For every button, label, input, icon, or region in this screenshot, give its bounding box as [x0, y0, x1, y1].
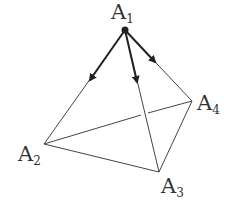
label-a4: A4: [197, 93, 220, 116]
vertex-a1-dot: [122, 27, 129, 34]
edge-a3-a4: [159, 101, 192, 172]
edge-a2-a4-left: [44, 115, 141, 144]
edge-a2-a4-right: [148, 101, 192, 113]
tetrahedron-diagram: A1 A2 A3 A4: [0, 0, 227, 205]
label-a3: A3: [161, 176, 184, 199]
edge-a2-a3: [44, 144, 159, 172]
label-a1: A1: [111, 2, 134, 25]
diagram-canvas: [0, 0, 227, 205]
vector-a1-a2: [90, 30, 125, 80]
label-a2: A2: [18, 144, 41, 167]
